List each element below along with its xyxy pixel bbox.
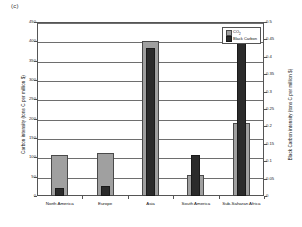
y-tick-label-left: 0 (14, 194, 36, 198)
y-tick-label-left: 150 (14, 136, 36, 140)
y-tick-mark-right (264, 74, 267, 75)
y-tick-mark-left (34, 41, 37, 42)
y-tick-mark-right (264, 22, 267, 23)
x-tick-mark (173, 196, 174, 199)
legend-label-co2: CO2 (233, 30, 241, 36)
gridline (38, 23, 263, 24)
bar-black-carbon (237, 42, 246, 196)
y-tick-mark-left (34, 138, 37, 139)
x-category-label: South America (173, 201, 218, 206)
y-tick-mark-right (264, 144, 267, 145)
chart-legend: CO2 Black Carbon (222, 27, 261, 44)
y-tick-label-right: 0.5 (266, 20, 290, 24)
y-tick-mark-right (264, 109, 267, 110)
bar-black-carbon (101, 186, 110, 196)
y-tick-mark-left (34, 22, 37, 23)
y-tick-label-left: 100 (14, 155, 36, 159)
y-tick-mark-right (264, 92, 267, 93)
y-tick-label-left: 250 (14, 97, 36, 101)
y-tick-label-right: 0.35 (266, 72, 290, 76)
x-category-label: North America (37, 201, 82, 206)
y-axis-title-left: Carbon intensity (tons C per million $) (21, 45, 26, 185)
y-tick-label-right: 0.4 (266, 55, 290, 59)
y-tick-mark-right (264, 57, 267, 58)
y-tick-mark-right (264, 39, 267, 40)
y-tick-label-right: 0.3 (266, 90, 290, 94)
bar-black-carbon (191, 155, 200, 196)
figure-panel-c: (c) Carbon intensity (tons C per million… (0, 0, 302, 227)
x-category-label: Asia (128, 201, 173, 206)
y-tick-label-left: 350 (14, 59, 36, 63)
y-tick-mark-left (34, 61, 37, 62)
y-tick-label-right: 0 (266, 194, 290, 198)
y-tick-label-left: 200 (14, 117, 36, 121)
x-tick-mark (128, 196, 129, 199)
y-tick-mark-left (34, 119, 37, 120)
x-tick-mark (219, 196, 220, 199)
legend-swatch-black-carbon-icon (226, 36, 232, 42)
y-tick-label-left: 450 (14, 20, 36, 24)
y-tick-label-left: 300 (14, 78, 36, 82)
y-tick-mark-left (34, 157, 37, 158)
y-tick-mark-left (34, 80, 37, 81)
y-tick-mark-right (264, 126, 267, 127)
panel-label: (c) (11, 3, 19, 9)
y-tick-label-right: 0.45 (266, 37, 290, 41)
y-tick-label-left: 50 (14, 175, 36, 179)
x-tick-mark (82, 196, 83, 199)
y-tick-label-right: 0.2 (266, 124, 290, 128)
y-tick-mark-left (34, 99, 37, 100)
x-category-label: Sub-Saharan Africa (219, 201, 264, 206)
bar-black-carbon (146, 48, 155, 196)
x-tick-mark (264, 196, 265, 199)
y-tick-mark-left (34, 177, 37, 178)
y-axis-title-right: Black Carbon intensity (tons C per milli… (288, 45, 293, 185)
x-category-label: Europe (82, 201, 127, 206)
legend-label-black-carbon: Black Carbon (233, 37, 257, 41)
y-tick-label-right: 0.1 (266, 159, 290, 163)
legend-item-black-carbon: Black Carbon (226, 36, 258, 42)
y-tick-label-right: 0.25 (266, 107, 290, 111)
y-tick-label-right: 0.15 (266, 142, 290, 146)
bar-black-carbon (55, 188, 64, 196)
y-tick-mark-right (264, 179, 267, 180)
y-tick-mark-left (34, 196, 37, 197)
y-tick-label-left: 400 (14, 39, 36, 43)
y-tick-label-right: 0.05 (266, 177, 290, 181)
y-tick-mark-right (264, 161, 267, 162)
